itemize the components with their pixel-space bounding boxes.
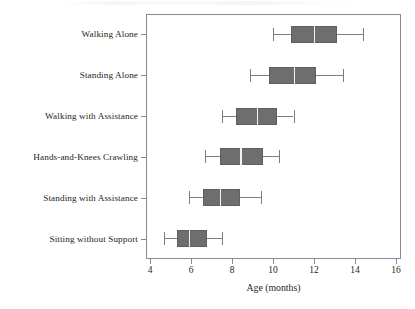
x-axis-tick xyxy=(232,259,233,264)
x-axis-tick-label: 14 xyxy=(343,265,367,276)
whisker-high-cap xyxy=(294,110,295,123)
y-axis-tick-label: Standing Alone xyxy=(0,70,138,80)
median-line xyxy=(240,148,241,165)
whisker-low-line xyxy=(222,116,236,117)
whisker-low-cap xyxy=(189,191,190,204)
x-axis-tick-label: 12 xyxy=(302,265,326,276)
scan-artifact xyxy=(60,1,360,5)
whisker-low-line xyxy=(164,238,176,239)
y-axis-tick-label: Hands-and-Knees Crawling xyxy=(0,152,138,162)
whisker-high-cap xyxy=(261,191,262,204)
whisker-low-cap xyxy=(250,69,251,82)
x-axis-tick xyxy=(355,259,356,264)
whisker-low-cap xyxy=(273,28,274,41)
whisker-high-cap xyxy=(279,150,280,163)
whisker-low-line xyxy=(189,197,203,198)
x-axis-title: Age (months) xyxy=(146,282,401,293)
whisker-high-cap xyxy=(363,28,364,41)
whisker-low-cap xyxy=(164,232,165,245)
y-axis-tick-label: Walking with Assistance xyxy=(0,111,138,121)
x-axis-tick xyxy=(396,259,397,264)
x-axis-tick-label: 8 xyxy=(220,265,244,276)
median-line xyxy=(189,230,190,247)
x-axis-tick-label: 6 xyxy=(179,265,203,276)
y-axis-tick-label: Standing with Assistance xyxy=(0,193,138,203)
x-axis-tick-label: 10 xyxy=(261,265,285,276)
y-axis-tick-label: Sitting without Support xyxy=(0,234,138,244)
whisker-high-cap xyxy=(343,69,344,82)
plot-area-frame xyxy=(146,14,401,259)
x-axis-tick xyxy=(314,259,315,264)
median-line xyxy=(314,26,315,43)
y-axis-tick xyxy=(141,157,146,158)
boxplot-figure: Walking AloneStanding AloneWalking with … xyxy=(0,0,415,309)
x-axis-tick xyxy=(150,259,151,264)
y-axis-tick xyxy=(141,75,146,76)
x-axis-tick-label: 16 xyxy=(384,265,408,276)
whisker-high-line xyxy=(207,238,221,239)
x-axis-tick xyxy=(191,259,192,264)
median-line xyxy=(294,67,295,84)
y-axis-tick xyxy=(141,198,146,199)
x-axis-tick xyxy=(273,259,274,264)
whisker-low-line xyxy=(250,75,268,76)
whisker-high-line xyxy=(277,116,293,117)
whisker-high-line xyxy=(337,34,364,35)
whisker-high-line xyxy=(316,75,343,76)
box-rect xyxy=(203,189,240,206)
y-axis-tick-label: Walking Alone xyxy=(0,29,138,39)
box-rect xyxy=(269,67,316,84)
whisker-high-cap xyxy=(222,232,223,245)
whisker-high-line xyxy=(263,156,279,157)
y-axis-tick xyxy=(141,34,146,35)
whisker-low-line xyxy=(205,156,219,157)
whisker-low-cap xyxy=(205,150,206,163)
y-axis-tick xyxy=(141,239,146,240)
x-axis-tick-label: 4 xyxy=(138,265,162,276)
whisker-high-line xyxy=(240,197,261,198)
box-rect xyxy=(177,230,208,247)
whisker-low-cap xyxy=(222,110,223,123)
median-line xyxy=(257,108,258,125)
median-line xyxy=(220,189,221,206)
whisker-low-line xyxy=(273,34,291,35)
y-axis-tick xyxy=(141,116,146,117)
